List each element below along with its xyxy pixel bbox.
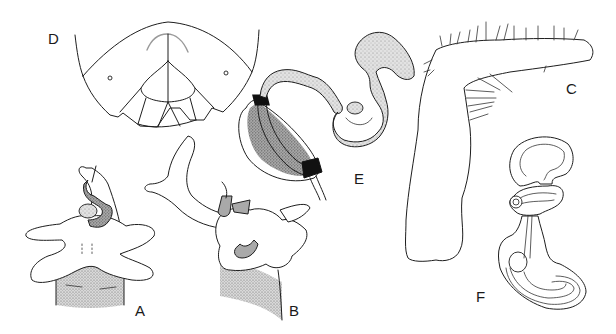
panel-a-oval [79, 204, 97, 218]
panel-e-coil-line [346, 118, 372, 125]
panel-d-seg-line [168, 102, 180, 126]
panel-d-spiracle-left [108, 76, 112, 80]
panel-d-seg-line [195, 88, 214, 108]
panel-d-left-margin [75, 35, 83, 76]
panel-e-duct [260, 70, 342, 114]
panel-label-f: F [476, 288, 485, 305]
panel-f-body-outer [498, 216, 586, 309]
panel-label-e: E [354, 170, 364, 187]
figure-illustration: D A B [0, 0, 616, 334]
panel-b-curved-process [145, 136, 226, 228]
panel-d-seg-line [190, 98, 196, 120]
panel-f: F [476, 137, 586, 309]
panel-b-duct [218, 196, 232, 217]
panel-label-c: C [566, 80, 577, 97]
panel-e-bulb [347, 102, 363, 114]
panel-label-a: A [135, 302, 145, 319]
panel-f-spiral [510, 196, 522, 208]
panel-label-d: D [48, 30, 59, 47]
panel-e-spermatheca [333, 32, 414, 146]
panel-d-bottom-edge [138, 120, 196, 127]
panel-b-sclerite [232, 200, 250, 214]
panel-d-seg-line [138, 98, 146, 124]
panel-d-seg-line [158, 102, 168, 127]
panel-d-seg-line [120, 88, 141, 112]
panel-e-tail [316, 176, 326, 200]
panel-label-b: B [289, 302, 299, 319]
panel-e: E [239, 32, 414, 200]
panel-d-spiracle-right [224, 71, 228, 75]
panel-e-lower-band [302, 158, 322, 178]
panel-a: A [26, 166, 155, 319]
panel-d: D [48, 22, 259, 127]
panel-d-right-margin [252, 30, 259, 72]
